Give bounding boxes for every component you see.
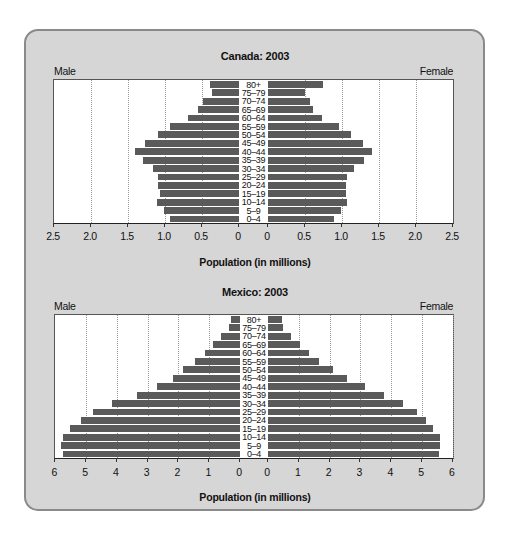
x-tick-label: 2.5 <box>445 230 459 242</box>
female-bar <box>268 434 440 441</box>
female-bar <box>268 383 365 390</box>
female-bar <box>268 341 300 348</box>
x-tick-mark <box>85 458 86 462</box>
gridline <box>128 80 129 223</box>
female-bar <box>268 140 363 147</box>
x-tick-mark <box>208 458 209 462</box>
male-bar <box>143 157 239 164</box>
female-label: Female <box>420 65 453 77</box>
female-bar <box>268 131 351 138</box>
male-bar <box>135 148 239 155</box>
x-tick-mark <box>452 223 453 227</box>
x-axis-label: Population (in millions) <box>0 491 510 503</box>
female-bar <box>268 392 384 399</box>
gridline <box>416 80 417 223</box>
male-bar <box>173 375 240 382</box>
male-bar <box>145 140 239 147</box>
male-label: Male <box>54 65 76 77</box>
female-bar <box>268 89 305 96</box>
female-bar <box>268 174 347 181</box>
female-bar <box>268 417 426 424</box>
plot-area: 80+75–7970–7465–6960–6455–5950–5445–4940… <box>53 79 454 224</box>
male-bar <box>164 207 239 214</box>
x-tick-mark <box>267 458 268 462</box>
male-bar <box>170 216 239 223</box>
male-bar <box>157 199 239 206</box>
x-tick-mark <box>421 458 422 462</box>
x-tick-label: 1.5 <box>371 230 385 242</box>
x-axis-label: Population (in millions) <box>0 256 510 268</box>
female-bar <box>268 451 439 458</box>
female-bar <box>268 366 333 373</box>
x-tick-label: 1.0 <box>157 230 171 242</box>
gridline <box>91 80 92 223</box>
x-tick-label: 4 <box>113 466 119 478</box>
x-tick-mark <box>390 458 391 462</box>
x-tick-mark <box>267 223 268 227</box>
x-tick-mark <box>341 223 342 227</box>
male-bar <box>231 316 240 323</box>
female-bar <box>268 216 334 223</box>
male-bar <box>93 409 240 416</box>
x-tick-label: 3 <box>357 466 363 478</box>
x-tick-label: 1.0 <box>334 230 348 242</box>
x-tick-label: 6 <box>449 466 455 478</box>
x-tick-mark <box>239 458 240 462</box>
x-tick-label: 0 <box>236 466 242 478</box>
male-bar <box>158 131 239 138</box>
male-bar <box>188 115 239 122</box>
female-bar <box>268 400 403 407</box>
x-tick-mark <box>298 458 299 462</box>
chart-title: Mexico: 2003 <box>0 286 510 298</box>
female-bar <box>268 316 282 323</box>
x-tick-label: 5 <box>82 466 88 478</box>
female-bar <box>268 375 347 382</box>
female-bar <box>268 207 341 214</box>
male-bar <box>210 81 239 88</box>
x-tick-label: 1 <box>295 466 301 478</box>
female-bar <box>268 182 346 189</box>
male-bar <box>61 442 240 449</box>
male-bar <box>157 383 240 390</box>
x-tick-label: 1 <box>205 466 211 478</box>
male-bar <box>160 190 239 197</box>
x-tick-mark <box>127 223 128 227</box>
age-group-label: 0–4 <box>240 450 268 459</box>
x-tick-label: 0 <box>264 230 270 242</box>
male-bar <box>203 98 239 105</box>
female-bar <box>268 358 319 365</box>
male-bar <box>229 324 240 331</box>
x-tick-label: 3 <box>144 466 150 478</box>
x-tick-mark <box>54 458 55 462</box>
male-bar <box>81 417 240 424</box>
male-bar <box>195 358 240 365</box>
x-tick-mark <box>53 223 54 227</box>
x-tick-label: 2 <box>326 466 332 478</box>
x-tick-mark <box>164 223 165 227</box>
female-bar <box>268 442 440 449</box>
age-group-label: 0–4 <box>239 215 268 224</box>
male-bar <box>212 89 239 96</box>
x-tick-mark <box>90 223 91 227</box>
chart-title: Canada: 2003 <box>0 50 510 62</box>
x-tick-label: 0.5 <box>194 230 208 242</box>
male-bar <box>198 106 239 113</box>
female-bar <box>268 165 354 172</box>
female-bar <box>268 148 372 155</box>
x-tick-label: 0.5 <box>297 230 311 242</box>
x-tick-label: 5 <box>418 466 424 478</box>
female-bar <box>268 123 339 130</box>
x-tick-mark <box>415 223 416 227</box>
x-tick-label: 0 <box>235 230 241 242</box>
x-tick-label: 2.0 <box>83 230 97 242</box>
male-bar <box>63 434 240 441</box>
female-bar <box>268 106 313 113</box>
gridline <box>453 315 454 458</box>
x-tick-mark <box>116 458 117 462</box>
female-bar <box>268 425 433 432</box>
male-label: Male <box>54 300 76 312</box>
male-bar <box>170 123 239 130</box>
female-bar <box>268 409 417 416</box>
male-bar <box>158 182 239 189</box>
x-tick-mark <box>201 223 202 227</box>
